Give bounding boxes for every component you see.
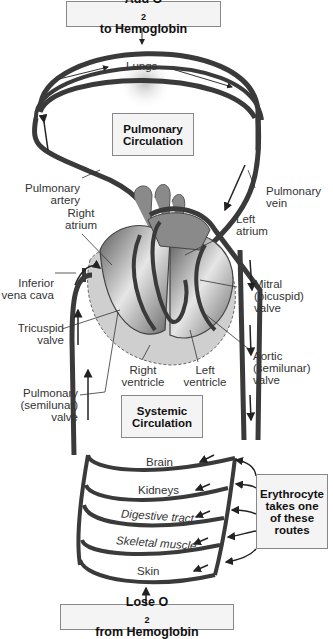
right-ventricle-line2: ventricle xyxy=(118,376,168,388)
pulm-semilunar-line2: (semilunar) xyxy=(2,399,78,411)
tricuspid-line2: valve xyxy=(4,334,64,346)
inferior-vena-cava-line1: Inferior xyxy=(0,277,54,289)
lose-o2-prefix: Lose O xyxy=(95,595,198,609)
aortic-line1: Aortic xyxy=(253,350,311,362)
erythrocyte-line2: takes one xyxy=(265,500,318,512)
erythrocyte-line4: routes xyxy=(274,524,309,536)
systemic-box-line1: Systemic xyxy=(137,405,188,417)
left-atrium-line2: atrium xyxy=(236,225,268,237)
right-atrium-line1: Right xyxy=(56,207,106,219)
pulmonary-artery-line1: Pulmonary xyxy=(20,182,80,194)
systemic-box-line2: Circulation xyxy=(132,417,192,429)
pulmonary-artery-line2: artery xyxy=(20,194,80,206)
right-ventricle-line1: Right xyxy=(118,364,168,376)
erythrocyte-box: Erythrocyte takes one of these routes xyxy=(256,474,328,549)
pulmonary-box-line2: Circulation xyxy=(123,135,183,147)
label-pulmonary-artery: Pulmonary artery xyxy=(20,182,80,206)
label-left-atrium: Left atrium xyxy=(236,213,268,237)
lose-o2-sub: 2 xyxy=(144,615,149,625)
left-ventricle-line2: ventricle xyxy=(180,376,230,388)
label-pulmonary-vein: Pulmonary vein xyxy=(266,185,321,209)
add-o2-prefix: Add O xyxy=(100,0,188,6)
pulmonary-box-line1: Pulmonary xyxy=(123,123,182,135)
label-right-atrium: Right atrium xyxy=(56,207,106,231)
add-o2-sub: 2 xyxy=(141,12,146,22)
label-right-ventricle: Right ventricle xyxy=(118,364,168,388)
mitral-line3: valve xyxy=(254,302,304,314)
erythrocyte-line3: of these xyxy=(270,512,314,524)
aortic-line2: (semilunar) xyxy=(253,362,311,374)
pulm-semilunar-line3: valve xyxy=(2,411,78,423)
label-inferior-vena-cava: Inferior vena cava xyxy=(0,277,54,301)
erythrocyte-line1: Erythrocyte xyxy=(260,488,324,500)
pulmonary-vein-line1: Pulmonary xyxy=(266,185,321,197)
left-ventricle-line1: Left xyxy=(180,364,230,376)
organ-skin: Skin xyxy=(137,565,159,577)
add-o2-suffix: to Hemoglobin xyxy=(100,22,188,36)
label-aortic-valve: Aortic (semilunar) valve xyxy=(253,350,311,386)
pulmonary-circulation-box: Pulmonary Circulation xyxy=(112,113,194,156)
right-atrium-line2: atrium xyxy=(56,219,106,231)
mitral-line1: Mitral xyxy=(254,278,304,290)
add-o2-box: Add O2 to Hemoglobin xyxy=(66,1,221,27)
pulm-semilunar-line1: Pulmonary xyxy=(2,387,78,399)
label-tricuspid-valve: Tricuspid valve xyxy=(4,322,64,346)
pulmonary-vein-line2: vein xyxy=(266,197,321,209)
lungs-label: Lungs xyxy=(126,60,157,72)
inferior-vena-cava-line2: vena cava xyxy=(0,289,54,301)
label-left-ventricle: Left ventricle xyxy=(180,364,230,388)
tricuspid-line1: Tricuspid xyxy=(4,322,64,334)
aortic-line3: valve xyxy=(253,374,311,386)
label-pulmonary-semilunar-valve: Pulmonary (semilunar) valve xyxy=(2,387,78,423)
organ-brain: Brain xyxy=(146,456,173,468)
systemic-circulation-box: Systemic Circulation xyxy=(121,395,203,438)
label-mitral-valve: Mitral (bicuspid) valve xyxy=(254,278,304,314)
organ-kidneys: Kidneys xyxy=(138,484,179,496)
lose-o2-suffix: from Hemoglobin xyxy=(95,625,198,639)
left-atrium-line1: Left xyxy=(236,213,268,225)
lose-o2-box: Lose O2 from Hemoglobin xyxy=(60,604,234,630)
mitral-line2: (bicuspid) xyxy=(254,290,304,302)
